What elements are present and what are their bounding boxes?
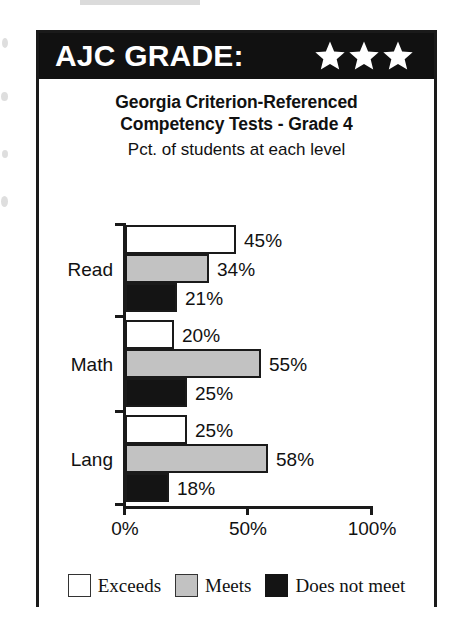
bar-value-math-exceeds: 20% xyxy=(182,325,220,344)
legend-label-meets: Meets xyxy=(205,576,251,595)
y-axis-tick xyxy=(115,223,124,226)
legend-item-meets: Meets xyxy=(175,574,251,597)
ajc-grade-banner: AJC GRADE: xyxy=(39,33,434,79)
bar-value-read-exceeds: 45% xyxy=(244,230,282,249)
bar-value-lang-dnm: 18% xyxy=(177,478,215,497)
x-axis-tick xyxy=(246,506,249,515)
star-icon xyxy=(314,40,346,72)
x-axis-label-0: 0% xyxy=(111,519,138,538)
chart-title: Georgia Criterion-Referenced Competency … xyxy=(39,91,434,136)
legend-label-exceeds: Exceeds xyxy=(98,576,161,595)
bar-math-dnm xyxy=(125,378,187,407)
bar-lang-meets xyxy=(125,444,268,473)
bar-value-read-meets: 34% xyxy=(217,259,255,278)
bar-math-meets xyxy=(125,349,261,378)
scan-artifact-top xyxy=(80,0,200,5)
chart-legend: Exceeds Meets Does not meet xyxy=(39,574,434,597)
x-axis-tick xyxy=(370,506,373,515)
chart-subtitle: Pct. of students at each level xyxy=(39,140,434,160)
bar-value-math-meets: 55% xyxy=(269,354,307,373)
bar-value-lang-exceeds: 25% xyxy=(195,420,233,439)
y-axis-tick xyxy=(115,315,124,318)
category-label-lang: Lang xyxy=(39,450,113,469)
chart-container: Georgia Criterion-Referenced Competency … xyxy=(39,79,434,607)
legend-item-does-not-meet: Does not meet xyxy=(265,574,405,597)
scan-artifact xyxy=(2,150,8,158)
legend-item-exceeds: Exceeds xyxy=(68,574,161,597)
x-axis-label-100: 100% xyxy=(348,519,397,538)
legend-swatch-does-not-meet xyxy=(265,574,288,597)
legend-label-does-not-meet: Does not meet xyxy=(295,576,405,595)
legend-swatch-exceeds xyxy=(68,574,91,597)
bar-value-read-dnm: 21% xyxy=(185,288,223,307)
star-icon xyxy=(348,40,380,72)
y-axis-tick xyxy=(115,410,124,413)
legend-swatch-meets xyxy=(175,574,198,597)
bar-value-lang-meets: 58% xyxy=(276,449,314,468)
star-rating xyxy=(314,40,414,72)
bar-lang-dnm xyxy=(125,473,169,502)
chart-title-line-1: Georgia Criterion-Referenced xyxy=(39,91,434,113)
category-label-math: Math xyxy=(39,355,113,374)
chart-title-line-2: Competency Tests - Grade 4 xyxy=(39,113,434,135)
x-axis-label-50: 50% xyxy=(229,519,267,538)
bar-read-exceeds xyxy=(125,225,236,254)
ajc-grade-panel: AJC GRADE: Georgia Criterion-Refe xyxy=(36,30,437,607)
bar-value-math-dnm: 25% xyxy=(195,383,233,402)
bar-lang-exceeds xyxy=(125,415,187,444)
bar-math-exceeds xyxy=(125,320,174,349)
bar-read-meets xyxy=(125,254,209,283)
ajc-grade-label: AJC GRADE: xyxy=(55,41,244,71)
bar-read-dnm xyxy=(125,283,177,312)
star-icon xyxy=(382,40,414,72)
category-label-read: Read xyxy=(39,260,113,279)
chart-heading: Georgia Criterion-Referenced Competency … xyxy=(39,79,434,160)
scan-artifact xyxy=(1,92,8,101)
scan-artifact xyxy=(1,196,8,207)
scan-artifact xyxy=(2,38,8,48)
x-axis-tick xyxy=(123,506,126,515)
bar-chart-plot: Read 45% 34% 21% Math xyxy=(39,223,434,523)
